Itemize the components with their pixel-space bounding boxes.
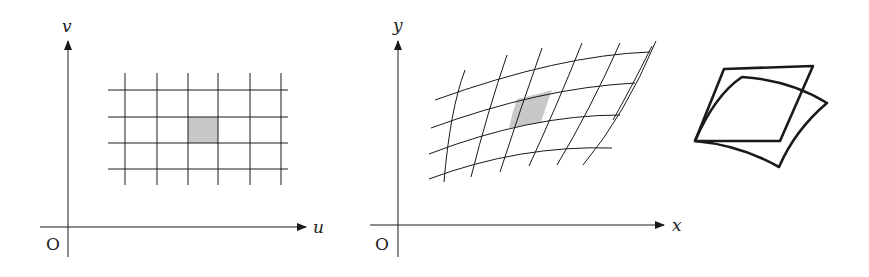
- u-axis-label: u: [313, 217, 324, 237]
- shaded-curved-cell: [509, 90, 552, 128]
- figure-canvas: v u O y x O: [0, 0, 869, 277]
- origin-label: O: [46, 234, 60, 254]
- area-comparison-panel: [695, 66, 827, 167]
- uv-panel: v u O: [40, 16, 324, 257]
- origin-label: O: [375, 234, 389, 254]
- shaded-cell: [188, 117, 218, 143]
- x-axis-label: x: [672, 215, 682, 235]
- y-axis-label: y: [392, 15, 403, 35]
- xy-panel: y x O: [370, 15, 682, 257]
- v-axis-label: v: [62, 16, 72, 36]
